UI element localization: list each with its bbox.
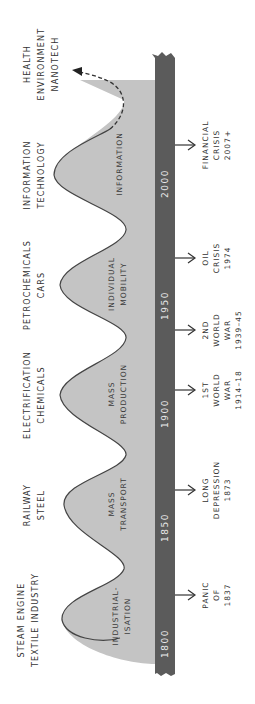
year-1850: 1850: [160, 513, 170, 542]
svg-text:1ST: 1ST: [201, 381, 210, 398]
wave-label-3: ELECTRIFICATION CHEMICALS: [23, 351, 46, 439]
wave-label-1: STEAM ENGINE TEXTILE INDUSTRY: [17, 573, 40, 668]
svg-text:WAR: WAR: [223, 320, 232, 340]
year-2000: 2000: [160, 169, 170, 198]
event-world-war-2: 2ND WORLD WAR 1939–45: [201, 310, 243, 349]
svg-text:MASS: MASS: [107, 491, 116, 516]
diagram-canvas: 1800 1850 1900 1950 2000 STEAM ENGINE TE…: [0, 0, 255, 704]
event-panic-1837: PANIC OF 1837: [201, 581, 232, 608]
wave-area: [54, 80, 155, 664]
svg-text:STEAM ENGINE: STEAM ENGINE: [17, 583, 26, 658]
svg-text:PETROCHEMICALS: PETROCHEMICALS: [23, 240, 32, 330]
svg-text:CARS: CARS: [37, 272, 46, 299]
arrow-down-icon: [175, 590, 195, 600]
svg-text:1939–45: 1939–45: [234, 310, 243, 349]
svg-text:INDIVIDUAL: INDIVIDUAL: [107, 257, 116, 311]
wave-label-5: INFORMATION TECHNOLOGY: [23, 140, 46, 209]
svg-text:DEPRESSION: DEPRESSION: [212, 461, 221, 519]
svg-text:PANIC: PANIC: [201, 581, 210, 608]
svg-text:INFORMATION: INFORMATION: [115, 132, 124, 196]
arrow-down-icon: [175, 325, 195, 335]
event-oil-crisis: OIL CRISIS 1974: [201, 243, 232, 273]
svg-text:OIL: OIL: [201, 250, 210, 265]
svg-text:WORLD: WORLD: [212, 373, 221, 406]
event-financial-crisis: FINANCIAL CRISIS 2007+: [201, 121, 232, 170]
wave-label-6: HEALTH ENVIRONMENT NANOTECH: [23, 28, 60, 101]
svg-text:1914–18: 1914–18: [234, 370, 243, 409]
svg-text:MASS: MASS: [107, 381, 116, 406]
svg-text:PRODUCTION: PRODUCTION: [119, 364, 128, 424]
arrow-down-icon: [175, 385, 195, 395]
year-1950: 1950: [160, 291, 170, 320]
wave-label-4: PETROCHEMICALS CARS: [23, 240, 46, 330]
event-arrows: [175, 140, 195, 600]
year-1900: 1900: [160, 399, 170, 428]
svg-text:ISATION: ISATION: [123, 598, 132, 635]
event-long-depression: LONG DEPRESSION 1873: [201, 461, 232, 519]
svg-text:MOBILITY: MOBILITY: [119, 262, 128, 305]
svg-text:FINANCIAL: FINANCIAL: [201, 121, 210, 170]
year-1800: 1800: [160, 629, 170, 658]
svg-text:INDUSTRIAL-: INDUSTRIAL-: [111, 587, 120, 646]
svg-text:RAILWAY: RAILWAY: [23, 484, 32, 526]
svg-text:WORLD: WORLD: [212, 313, 221, 346]
svg-text:NANOTECH: NANOTECH: [51, 37, 60, 92]
kondratiev-diagram: 1800 1850 1900 1950 2000 STEAM ENGINE TE…: [0, 0, 255, 704]
wave-label-2: RAILWAY STEEL: [23, 484, 46, 526]
svg-text:LONG: LONG: [201, 477, 210, 502]
svg-text:OF: OF: [212, 589, 221, 601]
arrow-down-icon: [175, 253, 195, 263]
svg-text:ENVIRONMENT: ENVIRONMENT: [37, 28, 46, 101]
svg-text:CRISIS: CRISIS: [212, 243, 221, 273]
svg-text:1873: 1873: [223, 478, 232, 501]
projected-arrowhead-icon: [72, 67, 82, 76]
svg-text:INFORMATION: INFORMATION: [23, 140, 32, 209]
svg-text:CRISIS: CRISIS: [212, 130, 221, 160]
svg-text:WAR: WAR: [223, 380, 232, 400]
arrow-down-icon: [175, 140, 195, 150]
wave-theme-5: INFORMATION: [115, 132, 124, 196]
arrow-down-icon: [175, 485, 195, 495]
svg-text:HEALTH: HEALTH: [23, 45, 32, 83]
svg-text:2007+: 2007+: [223, 130, 232, 160]
svg-text:TEXTILE INDUSTRY: TEXTILE INDUSTRY: [31, 573, 40, 668]
svg-text:1974: 1974: [223, 246, 232, 269]
svg-text:CHEMICALS: CHEMICALS: [37, 366, 46, 423]
svg-text:ELECTRIFICATION: ELECTRIFICATION: [23, 351, 32, 439]
timeline-bar: [152, 52, 175, 676]
svg-text:2ND: 2ND: [201, 320, 210, 339]
svg-text:STEEL: STEEL: [37, 490, 46, 521]
svg-text:TECHNOLOGY: TECHNOLOGY: [37, 142, 46, 210]
svg-text:TRANSPORT: TRANSPORT: [119, 477, 128, 532]
svg-text:1837: 1837: [223, 583, 232, 606]
event-world-war-1: 1ST WORLD WAR 1914–18: [201, 370, 243, 409]
